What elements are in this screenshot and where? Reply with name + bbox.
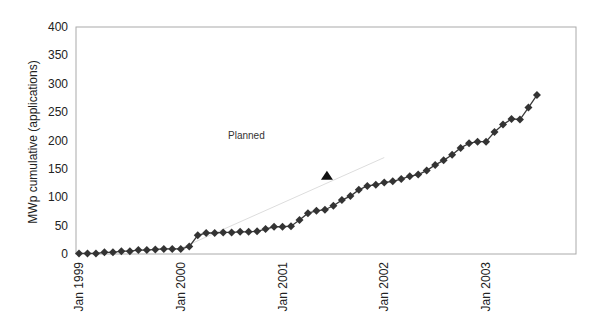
y-axis-title: MWp cumulative (applications) xyxy=(26,60,40,223)
series-line xyxy=(79,95,537,253)
data-point-marker xyxy=(397,175,405,183)
series-points xyxy=(75,91,541,257)
data-point-marker xyxy=(270,223,278,231)
data-point-marker xyxy=(414,171,422,179)
x-tick-label: Jan 2001 xyxy=(276,262,290,312)
data-point-marker xyxy=(92,249,100,257)
data-point-marker xyxy=(380,178,388,186)
y-tick-label: 50 xyxy=(55,219,69,233)
y-tick-label: 200 xyxy=(48,134,68,148)
data-point-marker xyxy=(100,248,108,256)
data-point-marker xyxy=(228,228,236,236)
data-point-marker xyxy=(312,207,320,215)
data-point-marker xyxy=(431,161,439,169)
x-axis-labels: Jan 1999Jan 2000Jan 2001Jan 2002Jan 2003 xyxy=(72,262,493,312)
x-tick-label: Jan 1999 xyxy=(72,262,86,312)
data-point-marker xyxy=(160,245,168,253)
x-tick-label: Jan 2003 xyxy=(479,262,493,312)
data-point-marker xyxy=(321,206,329,214)
data-point-marker xyxy=(134,246,142,254)
data-point-marker xyxy=(168,245,176,253)
data-point-marker xyxy=(389,177,397,185)
data-point-marker xyxy=(151,245,159,253)
data-point-marker xyxy=(465,139,473,147)
planned-triangle-marker xyxy=(321,171,333,180)
y-tick-label: 150 xyxy=(48,162,68,176)
data-point-marker xyxy=(372,181,380,189)
y-tick-label: 100 xyxy=(48,190,68,204)
data-point-marker xyxy=(83,249,91,257)
data-point-marker xyxy=(533,91,541,99)
data-point-marker xyxy=(507,115,515,123)
data-point-marker xyxy=(143,246,151,254)
data-point-marker xyxy=(211,229,219,237)
data-point-marker xyxy=(219,228,227,236)
planned-trend-line xyxy=(181,158,385,249)
data-point-marker xyxy=(329,202,337,210)
data-point-marker xyxy=(516,116,524,124)
data-point-marker xyxy=(177,245,185,253)
y-tick-label: 350 xyxy=(48,48,68,62)
data-point-marker xyxy=(338,196,346,204)
plot-area xyxy=(76,27,576,254)
data-point-marker xyxy=(245,228,253,236)
data-point-marker xyxy=(440,156,448,164)
data-point-marker xyxy=(406,172,414,180)
data-point-marker xyxy=(279,223,287,231)
chart: 050100150200250300350400 MWp cumulative … xyxy=(0,0,596,335)
y-axis-ticks: 050100150200250300350400 xyxy=(48,20,68,261)
data-point-marker xyxy=(262,225,270,233)
y-tick-label: 250 xyxy=(48,105,68,119)
x-tick-label: Jan 2000 xyxy=(174,262,188,312)
data-point-marker xyxy=(423,167,431,175)
data-point-marker xyxy=(253,227,261,235)
data-point-marker xyxy=(236,228,244,236)
y-tick-label: 400 xyxy=(48,20,68,34)
data-point-marker xyxy=(524,104,532,112)
data-point-marker xyxy=(363,182,371,190)
x-tick-label: Jan 2002 xyxy=(377,262,391,312)
data-point-marker xyxy=(474,138,482,146)
planned-label: Planned xyxy=(228,130,265,141)
data-point-marker xyxy=(109,248,117,256)
y-tick-label: 300 xyxy=(48,77,68,91)
y-tick-label: 0 xyxy=(61,247,68,261)
